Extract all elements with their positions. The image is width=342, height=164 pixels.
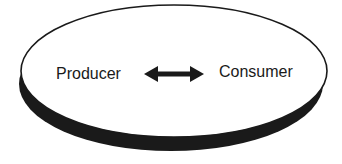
consumer-label: Consumer xyxy=(219,64,293,80)
producer-label: Producer xyxy=(56,66,121,82)
disc-diagram xyxy=(0,0,342,164)
